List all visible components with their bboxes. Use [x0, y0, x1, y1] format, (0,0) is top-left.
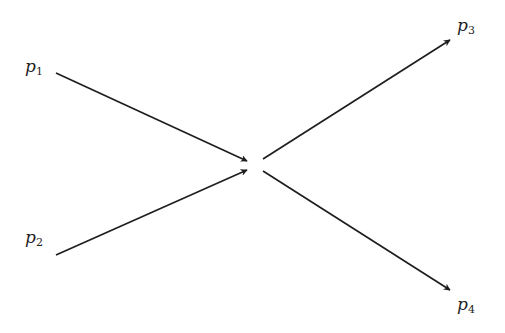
scattering-diagram: p1 p2 p3 p4	[0, 0, 505, 333]
outgoing-arrow-p3	[263, 40, 450, 159]
label-p4: p4	[457, 294, 475, 316]
label-p3: p3	[457, 15, 475, 37]
incoming-arrow-p1	[56, 73, 247, 161]
label-p1: p1	[25, 56, 43, 78]
incoming-arrow-p2	[56, 170, 247, 255]
outgoing-arrow-p4	[263, 171, 450, 290]
label-p2: p2	[25, 227, 43, 249]
